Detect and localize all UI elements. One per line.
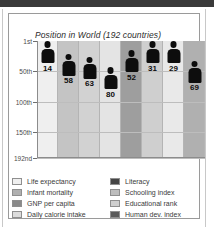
legend-item: Infant mortality <box>12 187 110 198</box>
page-top-band <box>0 0 214 7</box>
legend-item: Literacy <box>110 176 198 187</box>
chart-legend: Life expectancyInfant mortalityGNP per c… <box>12 176 198 220</box>
plot-axes-frame <box>37 41 205 158</box>
legend-column-right: LiteracySchooling indexEducational rankH… <box>110 176 198 220</box>
legend-label: Literacy <box>125 178 150 185</box>
legend-label: Life expectancy <box>27 178 76 185</box>
y-axis-label: 100th <box>16 98 32 105</box>
legend-item: Schooling index <box>110 187 198 198</box>
gridline <box>37 158 205 159</box>
chart-title: Position in World (192 countries) <box>35 30 161 40</box>
legend-swatch <box>110 189 120 197</box>
page-rule-right <box>205 9 206 227</box>
legend-swatch <box>12 200 22 208</box>
legend-swatch <box>12 178 22 186</box>
legend-swatch <box>110 211 120 219</box>
plot-area: 1st50th100th150th192nd 1458638052312969 <box>37 41 205 158</box>
y-axis-label: 50th <box>19 68 32 75</box>
y-axis-label: 150th <box>16 129 32 136</box>
legend-label: Human dev. index <box>125 211 181 218</box>
legend-item: Educational rank <box>110 198 198 209</box>
legend-label: Educational rank <box>125 200 177 207</box>
legend-item: Daily calorie intake <box>12 209 110 220</box>
page-top-band-edge <box>0 7 214 9</box>
y-axis-label: 192nd <box>14 155 32 162</box>
legend-item: GNP per capita <box>12 198 110 209</box>
legend-item: Human dev. index <box>110 209 198 220</box>
legend-item: Life expectancy <box>12 176 110 187</box>
legend-swatch <box>110 200 120 208</box>
legend-swatch <box>110 178 120 186</box>
legend-swatch <box>12 211 22 219</box>
page-rule-left <box>2 9 3 227</box>
legend-label: Infant mortality <box>27 189 73 196</box>
legend-label: Schooling index <box>125 189 174 196</box>
legend-column-left: Life expectancyInfant mortalityGNP per c… <box>12 176 110 220</box>
legend-swatch <box>12 189 22 197</box>
legend-label: Daily calorie intake <box>27 211 86 218</box>
legend-label: GNP per capita <box>27 200 75 207</box>
y-axis-tick <box>33 158 37 159</box>
y-axis-label: 1st <box>23 38 32 45</box>
